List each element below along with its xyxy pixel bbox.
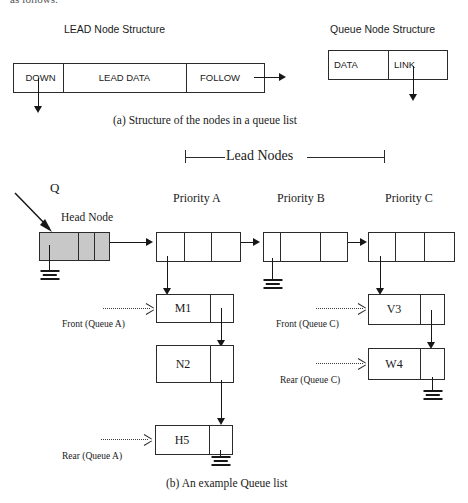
- priority-b-to-c-arrowhead: [360, 238, 367, 246]
- priority-a-box: [156, 232, 241, 262]
- queue-node-divider: [388, 50, 389, 80]
- queue-c-w4-ground-symbol: [423, 390, 442, 400]
- rear-queue-a-label: Rear (Queue A): [62, 452, 122, 462]
- rear-queue-a-arrowhead: [144, 434, 153, 445]
- queue-node-link-pointer-arrowhead: [409, 94, 417, 101]
- head-node-divider-1: [78, 232, 79, 261]
- queue-node-structure-title: Queue Node Structure: [330, 24, 435, 35]
- lead-nodes-bracket-right-line: [307, 157, 385, 158]
- queue-a-m1-to-n2-line: [221, 308, 222, 344]
- caption-b: (b) An example Queue list: [166, 478, 287, 490]
- priority-b-label: Priority B: [277, 192, 325, 204]
- priority-c-divider-2: [424, 232, 425, 262]
- priority-b-divider-1: [280, 232, 281, 262]
- queue-node-field-link: LINK: [394, 60, 444, 70]
- queue-c-node-w4-data: W4: [368, 358, 420, 370]
- queue-a-n2-to-h5-arrowhead: [217, 418, 225, 425]
- queue-node-link-pointer-line: [413, 66, 414, 96]
- head-to-priority-a-arrowhead: [146, 238, 153, 246]
- head-node-down-line: [49, 245, 50, 271]
- queue-a-n2-to-h5-line: [221, 380, 222, 420]
- head-node-ground-symbol: [40, 270, 59, 280]
- queue-a-node-h5-data: H5: [155, 434, 209, 446]
- rear-queue-a-dotted-line: [101, 439, 148, 440]
- priority-b-ground-symbol: [263, 279, 282, 289]
- queue-c-v3-to-w4-line: [431, 310, 432, 345]
- top-cutoff-label: as follows:: [10, 0, 58, 5]
- queue-a-h5-ground-symbol: [211, 456, 230, 466]
- rear-queue-c-dotted-line: [316, 363, 363, 364]
- front-queue-c-arrowhead: [358, 303, 367, 314]
- priority-a-down-line: [167, 256, 168, 292]
- head-to-priority-a-line: [110, 242, 148, 243]
- priority-b-divider-2: [320, 232, 321, 262]
- figure-page: { "page": { "top_cut_text": "as follows:…: [0, 0, 468, 503]
- front-queue-c-label: Front (Queue C): [276, 320, 339, 330]
- lead-node-field-lead-data: LEAD DATA: [63, 73, 186, 83]
- queue-a-node-n2-divider: [210, 345, 211, 383]
- lead-node-structure-title: LEAD Node Structure: [64, 24, 165, 35]
- lead-nodes-bracket-right-tick: [384, 150, 385, 163]
- lead-node-follow-pointer-line: [254, 77, 282, 78]
- priority-c-box: [368, 232, 455, 262]
- head-node-label: Head Node: [61, 212, 113, 224]
- priority-c-divider-1: [395, 232, 396, 262]
- lead-node-field-follow: FOLLOW: [186, 73, 254, 83]
- priority-a-to-b-arrowhead: [253, 238, 260, 246]
- rear-queue-c-label: Rear (Queue C): [280, 376, 340, 386]
- lead-node-down-pointer-arrowhead: [34, 106, 42, 113]
- queue-c-node-w4-divider: [420, 348, 421, 380]
- queue-node-field-data: DATA: [334, 60, 384, 70]
- head-node-divider-2: [94, 232, 95, 261]
- top-cutoff-text: as follows:: [10, 0, 120, 6]
- queue-c-w4-null-line: [432, 377, 433, 391]
- front-queue-a-label: Front (Queue A): [62, 320, 125, 330]
- front-queue-a-dotted-line: [103, 308, 150, 309]
- queue-a-node-m1-data: M1: [156, 302, 210, 314]
- priority-b-down-line: [272, 258, 273, 280]
- priority-c-label: Priority C: [385, 192, 433, 204]
- priority-c-down-line: [380, 256, 381, 292]
- priority-a-divider-1: [184, 232, 185, 262]
- queue-a-node-n2-data: N2: [156, 358, 210, 370]
- lead-node-follow-pointer-arrowhead: [279, 73, 286, 81]
- q-pointer-arrow: [14, 192, 58, 236]
- caption-a: (a) Structure of the nodes in a queue li…: [113, 115, 297, 127]
- priority-b-box: [263, 232, 348, 262]
- lead-nodes-bracket-left-line: [185, 157, 225, 158]
- queue-c-node-v3-divider: [420, 294, 421, 325]
- rear-queue-c-arrowhead: [358, 358, 367, 369]
- lead-node-field-down: DOWN: [18, 73, 63, 83]
- lead-nodes-bracket-label: Lead Nodes: [226, 149, 293, 163]
- lead-node-down-pointer-line: [38, 78, 39, 108]
- priority-a-label: Priority A: [173, 192, 221, 204]
- front-queue-a-arrowhead: [146, 303, 155, 314]
- front-queue-c-dotted-line: [316, 308, 363, 309]
- priority-a-divider-2: [211, 232, 212, 262]
- queue-a-node-m1-divider: [210, 294, 211, 323]
- queue-c-node-v3-data: V3: [368, 303, 420, 315]
- queue-a-node-h5-divider: [209, 425, 210, 455]
